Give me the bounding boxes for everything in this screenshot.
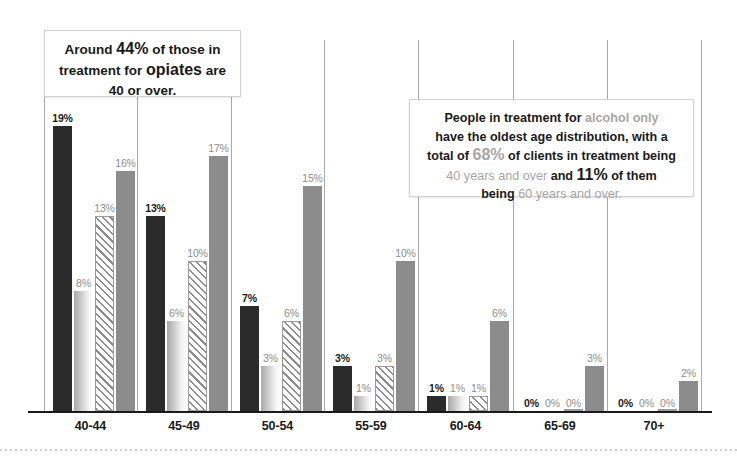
bar-40-44-series-4[interactable] — [116, 171, 135, 411]
bar-45-49-series-3[interactable] — [188, 261, 207, 411]
callout-alcohol-l3a: total of — [427, 149, 472, 163]
bar-value-label: 6% — [284, 307, 299, 319]
bar-50-54-series-1[interactable] — [240, 306, 259, 411]
bar-value-label: 0% — [639, 397, 654, 409]
callout-opiates-line-3: 40 or over. — [55, 81, 230, 101]
bar-value-label: 1% — [450, 382, 465, 394]
bar-60-64-series-2[interactable] — [448, 396, 467, 411]
x-tick-label-50-54: 50-54 — [231, 419, 324, 433]
bar-60-64-series-1[interactable] — [427, 396, 446, 411]
bar-group-65-69: 0% 0% 0% 3% — [513, 39, 607, 411]
bar-value-label: 19% — [52, 112, 73, 124]
bar-value-label: 3% — [263, 352, 278, 364]
bar-value-label: 2% — [681, 367, 696, 379]
bar-value-label: 0% — [545, 397, 560, 409]
bar-value-label: 3% — [335, 352, 350, 364]
bar-value-label: 16% — [115, 157, 136, 169]
bar-45-49-series-2[interactable] — [167, 321, 186, 411]
x-tick-label-45-49: 45-49 — [137, 419, 231, 433]
bar-value-label: 10% — [395, 247, 416, 259]
callout-opiates-l2b: opiates — [146, 61, 202, 78]
callout-alcohol-l4b: and — [547, 169, 576, 183]
bar-65-69-series-4[interactable] — [585, 366, 604, 411]
callout-alcohol-l1b: alcohol only — [585, 111, 658, 125]
bar-value-label: 13% — [145, 202, 166, 214]
bar-55-59-series-4[interactable] — [396, 261, 415, 411]
bar-value-label: 17% — [208, 142, 229, 154]
bar-55-59-series-1[interactable] — [333, 366, 352, 411]
age-distribution-bar-chart: 19% 8% 13% 16% 13% 6% — [0, 0, 737, 461]
bar-group-55-59: 3% 1% 3% 10% — [324, 39, 418, 411]
callout-opiates-line-1: Around 44% of those in — [55, 39, 230, 60]
bar-value-label: 1% — [471, 382, 486, 394]
bar-group-60-64: 1% 1% 1% 6% — [418, 39, 513, 411]
bar-value-label: 8% — [76, 277, 91, 289]
callout-alcohol-line-2: have the oldest age distribution, with a — [422, 128, 681, 147]
x-axis-line — [28, 411, 712, 413]
callout-opiates-l2c: are — [202, 63, 226, 78]
bar-value-label: 1% — [356, 382, 371, 394]
group-divider-line — [701, 40, 702, 412]
callout-alcohol-line-3: total of 68% of clients in treatment bei… — [422, 146, 681, 166]
bar-value-label: 6% — [492, 307, 507, 319]
bar-value-label: 6% — [169, 307, 184, 319]
callout-alcohol-l4d: of them — [608, 169, 657, 183]
bar-45-49-series-4[interactable] — [209, 156, 228, 411]
bar-40-44-series-1[interactable] — [53, 126, 72, 411]
bar-50-54-series-2[interactable] — [261, 366, 280, 411]
bar-60-64-series-4[interactable] — [490, 321, 509, 411]
callout-alcohol-line-5: being 60 years and over. — [422, 185, 681, 204]
bar-50-54-series-3[interactable] — [282, 321, 301, 411]
footer-dotted-rule — [0, 449, 737, 451]
callout-alcohol-l3b: 68% — [473, 146, 505, 163]
bar-value-label: 3% — [377, 352, 392, 364]
callout-opiates-l1a: Around — [65, 42, 117, 57]
callout-alcohol-l4c: 11% — [577, 166, 608, 183]
bar-55-59-series-3[interactable] — [375, 366, 394, 411]
bar-40-44-series-2[interactable] — [74, 291, 93, 411]
callout-opiates-line-2: treatment for opiates are — [55, 60, 230, 81]
bar-value-label: 7% — [242, 292, 257, 304]
bar-50-54-series-4[interactable] — [303, 186, 322, 411]
callout-alcohol-l4a: 40 years and over — [446, 169, 547, 183]
bar-45-49-series-1[interactable] — [146, 216, 165, 411]
bar-value-label: 13% — [94, 202, 115, 214]
bar-value-label: 0% — [618, 397, 633, 409]
bar-group-50-54: 7% 3% 6% 15% — [231, 39, 324, 411]
bar-55-59-series-2[interactable] — [354, 396, 373, 411]
bar-value-label: 0% — [566, 397, 581, 409]
x-tick-label-70-plus: 70+ — [607, 419, 701, 433]
x-tick-label-55-59: 55-59 — [324, 419, 418, 433]
x-tick-label-60-64: 60-64 — [418, 419, 513, 433]
x-tick-label-65-69: 65-69 — [513, 419, 607, 433]
bar-70-plus-series-4[interactable] — [679, 381, 698, 411]
callout-alcohol-l1a: People in treatment for — [444, 111, 585, 125]
bar-value-label: 0% — [524, 397, 539, 409]
callout-alcohol-line-4: 40 years and over and 11% of them — [422, 166, 681, 186]
callout-alcohol-line-1: People in treatment for alcohol only — [422, 109, 681, 128]
callout-alcohol-l5b: 60 years and over. — [518, 187, 622, 201]
callout-opiates-l1b: 44% — [116, 40, 148, 57]
bar-value-label: 10% — [187, 247, 208, 259]
callout-opiates-l1c: of those in — [148, 42, 220, 57]
callout-alcohol: People in treatment for alcohol only hav… — [409, 99, 694, 197]
bar-value-label: 1% — [429, 382, 444, 394]
x-tick-label-40-44: 40-44 — [44, 419, 137, 433]
callout-alcohol-l5a: being — [481, 187, 518, 201]
bar-60-64-series-3[interactable] — [469, 396, 488, 411]
bar-40-44-series-3[interactable] — [95, 216, 114, 411]
bar-value-label: 0% — [660, 397, 675, 409]
callout-alcohol-l3c: of clients in treatment being — [505, 149, 676, 163]
bar-value-label: 3% — [587, 352, 602, 364]
bar-group-70-plus: 0% 0% 0% 2% — [607, 39, 701, 411]
callout-opiates-l2a: treatment for — [59, 63, 146, 78]
callout-opiates: Around 44% of those in treatment for opi… — [44, 30, 241, 97]
bar-value-label: 15% — [302, 172, 323, 184]
